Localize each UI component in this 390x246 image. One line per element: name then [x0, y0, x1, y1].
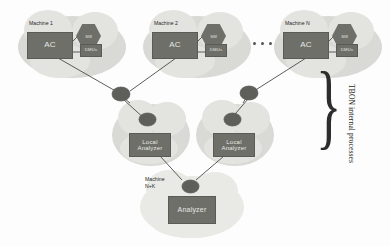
machine-label-1: Machine 1 [29, 20, 53, 26]
ellipsis-dot [261, 42, 264, 45]
dmu-box-2[interactable]: DMUs [205, 44, 227, 57]
ac-box-2[interactable]: AC [152, 32, 198, 59]
ellipsis-dot [269, 42, 272, 45]
local-analyzer-label-2: Local Analyzer [214, 139, 254, 152]
machine-label-2: Machine 2 [154, 20, 178, 26]
local-analyzer-box-1[interactable]: Local Analyzer [129, 133, 171, 157]
aggregation-node-left[interactable] [112, 87, 130, 101]
local-analyzer-box-2[interactable]: Local Analyzer [213, 133, 255, 157]
root-analyzer-box[interactable]: Analyzer [168, 196, 216, 224]
tbon-scope-brace: } [316, 57, 341, 153]
root-analyzer-node[interactable] [182, 180, 199, 193]
dmu-box-1[interactable]: DMUs [80, 44, 102, 57]
ellipsis-dot [253, 42, 256, 45]
local-analyzer-label-1: Local Analyzer [130, 139, 170, 152]
machine-label-n: Machine N [285, 20, 310, 26]
machines-ellipsis [253, 42, 272, 45]
ac-box-1[interactable]: AC [27, 32, 73, 59]
diagram-canvas: Machine 1 AC SW DMUs Machine 2 AC SW DMU… [0, 0, 390, 246]
local-analyzer-node-2[interactable] [224, 113, 241, 126]
local-analyzer-node-1[interactable] [139, 113, 156, 126]
machine-label-n-plus-k: Machine N+K [145, 176, 165, 189]
tbon-scope-label: TBON internal processes [347, 84, 356, 163]
aggregation-node-right[interactable] [240, 86, 258, 100]
